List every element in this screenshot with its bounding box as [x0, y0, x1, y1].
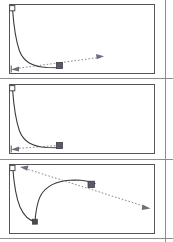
panel-bottom-frame: [10, 165, 155, 234]
figure-container: [0, 0, 173, 242]
turn-marker-bottom: [32, 219, 37, 224]
panel-middle: [10, 85, 155, 154]
start-marker-top: [10, 6, 15, 11]
start-marker-bottom: [10, 165, 15, 170]
panel-top-frame: [10, 5, 155, 74]
panel-middle-frame: [10, 85, 155, 154]
start-marker-middle: [10, 86, 15, 91]
mid-marker-bottom: [88, 181, 94, 187]
end-marker-middle: [57, 143, 63, 149]
panel-bottom: [10, 165, 155, 234]
three-panel-figure: [0, 0, 173, 242]
panel-top: [10, 5, 155, 74]
end-marker-top: [57, 63, 63, 69]
